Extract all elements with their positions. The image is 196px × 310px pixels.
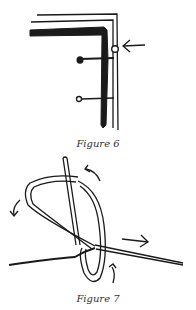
figure-6-caption: Figure 6 bbox=[0, 138, 196, 149]
lower-loop-outer bbox=[78, 181, 105, 282]
loop-stitch-icon bbox=[112, 46, 119, 53]
curved-arrow-bottom-icon bbox=[109, 264, 116, 283]
figure-7: Figure 7 bbox=[0, 155, 196, 310]
thread-left bbox=[9, 248, 95, 265]
needle-icon bbox=[63, 157, 80, 245]
figure-7-caption: Figure 7 bbox=[0, 293, 196, 304]
figure-6-drawing bbox=[0, 0, 196, 140]
thread-right-lower bbox=[96, 249, 183, 265]
figure-6: Figure 6 bbox=[0, 0, 196, 155]
thread-right-upper bbox=[95, 245, 183, 263]
figure-7-drawing bbox=[0, 155, 196, 290]
arrow-left-icon bbox=[123, 40, 145, 52]
arrow-right-icon bbox=[122, 235, 148, 247]
curved-arrow-top-icon bbox=[85, 165, 100, 181]
fabric-corner bbox=[30, 27, 108, 128]
pin-open-head-icon bbox=[77, 97, 115, 102]
curved-arrow-left-icon bbox=[10, 200, 20, 216]
